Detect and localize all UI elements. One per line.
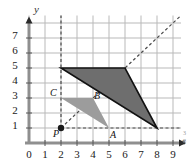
x-tick-5: 5 xyxy=(102,148,116,160)
x-tick-4: 4 xyxy=(86,148,100,160)
y-tick-7: 7 xyxy=(8,29,22,41)
x-tick-9: 9 xyxy=(166,148,180,160)
y-axis-arrow xyxy=(26,17,33,24)
x-tick-0: 0 xyxy=(22,148,36,160)
y-tick-2: 2 xyxy=(8,104,22,116)
x-tick-7: 7 xyxy=(134,148,148,160)
point-label-P: P xyxy=(53,129,59,139)
y-axis-label: y xyxy=(34,4,39,15)
x-tick-2: 2 xyxy=(54,148,68,160)
y-tick-1: 1 xyxy=(8,119,22,131)
y-tick-4: 4 xyxy=(8,74,22,86)
y-tick-6: 6 xyxy=(8,44,22,56)
coordinate-plane-svg xyxy=(0,0,193,165)
point-label-A: A xyxy=(110,130,116,140)
y-tick-5: 5 xyxy=(8,59,22,71)
x-tick-8: 8 xyxy=(150,148,164,160)
x-tick-6: 6 xyxy=(118,148,132,160)
x-tick-3: 3 xyxy=(70,148,84,160)
point-label-C: C xyxy=(50,88,57,98)
x-tick-1: 1 xyxy=(38,148,52,160)
y-tick-3: 3 xyxy=(8,89,22,101)
corner-note-numerator: 3 xyxy=(183,130,186,136)
point-label-B: B xyxy=(94,91,100,101)
corner-note-denominator: 8 xyxy=(183,138,186,144)
dilation-figure: 7 6 5 4 3 2 1 0 1 2 3 4 5 6 7 8 9 y x P … xyxy=(0,0,193,165)
